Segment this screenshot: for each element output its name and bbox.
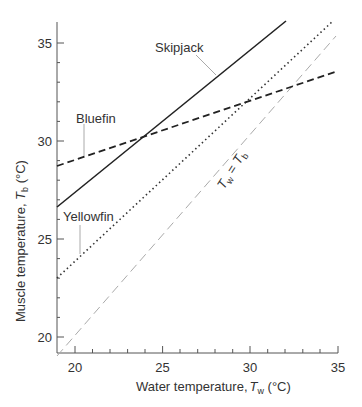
x-tick-30: 30 xyxy=(243,360,257,375)
y-tick-labels: 20 25 30 35 xyxy=(38,36,52,345)
x-axis-title: Water temperature,Tw (°C) xyxy=(136,379,291,396)
y-ticks xyxy=(57,43,64,337)
chart: 20 25 30 35 20 25 30 35 Skipjack Bluefin… xyxy=(0,0,362,407)
identity-line xyxy=(57,36,336,356)
y-tick-30: 30 xyxy=(38,134,52,149)
y-tick-20: 20 xyxy=(38,330,52,345)
yellowfin-label: Yellowfin xyxy=(63,209,114,224)
y-axis-title: Muscle temperature, Tb (°C) xyxy=(13,160,30,322)
y-tick-25: 25 xyxy=(38,232,52,247)
x-tick-labels: 20 25 30 35 xyxy=(68,360,345,375)
yellowfin-line xyxy=(57,21,333,278)
y-tick-35: 35 xyxy=(38,36,52,51)
bluefin-label: Bluefin xyxy=(76,111,116,126)
x-tick-25: 25 xyxy=(155,360,169,375)
skipjack-label: Skipjack xyxy=(155,40,204,55)
x-tick-35: 35 xyxy=(331,360,345,375)
x-ticks xyxy=(75,346,338,353)
x-tick-20: 20 xyxy=(68,360,82,375)
skipjack-leader xyxy=(196,55,216,75)
